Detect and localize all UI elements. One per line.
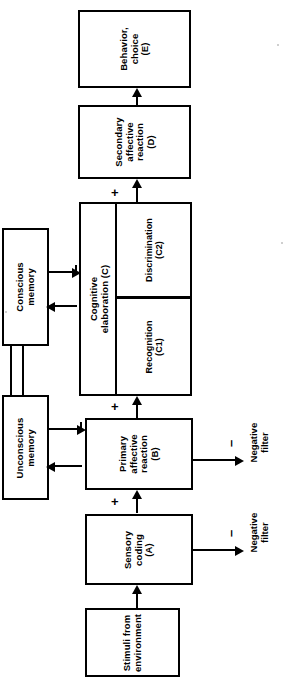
primary-line-4: (B) xyxy=(149,447,160,461)
edge-conscious-memory-stub-upper xyxy=(75,265,77,273)
unconscious-memory-line-2: memory xyxy=(25,429,36,467)
node-conscious-memory-label: Conscious memory xyxy=(15,262,36,311)
arrowhead-primary-to-negative-filter xyxy=(235,456,244,466)
primary-line-1: Primary xyxy=(117,436,128,472)
sign-plus-cognitive-to-secondary: + xyxy=(111,186,119,199)
stimuli-line-2: environment xyxy=(132,613,143,671)
arrowhead-secondary-to-behavior xyxy=(132,88,142,97)
node-secondary-affective-reaction-label: Secondary affective reaction (D) xyxy=(113,117,156,166)
arrowhead-cognitive-to-conscious-memory xyxy=(46,302,55,312)
sign-minus-sensory-filter: – xyxy=(224,530,237,537)
secondary-line-2: affective xyxy=(123,122,134,161)
edge-primary-to-negative-filter xyxy=(193,459,238,461)
edge-cognitive-to-secondary xyxy=(136,186,138,202)
conscious-memory-line-2: memory xyxy=(25,268,36,306)
negative-filter-sensory-line-1: Negative xyxy=(248,513,259,553)
primary-line-3: reaction xyxy=(138,435,149,473)
scan-speck-2 xyxy=(281,242,283,244)
edge-memory-link-left xyxy=(10,346,12,395)
conscious-memory-line-1: Conscious xyxy=(14,262,25,311)
behavior-line-3: (E) xyxy=(139,43,150,56)
edge-unconscious-memory-stub-upper xyxy=(80,422,82,430)
recognition-line-2: (C1) xyxy=(154,338,164,356)
sensory-line-2: coding xyxy=(133,534,144,566)
arrowhead-primary-to-unconscious-memory xyxy=(46,462,55,472)
sign-minus-primary-filter: – xyxy=(224,440,237,447)
node-recognition: Recognition (C1) xyxy=(115,297,192,396)
node-primary-affective-reaction: Primary affective reaction (B) xyxy=(85,418,193,490)
secondary-line-3: reaction xyxy=(134,123,145,161)
recognition-line-1: Recognition xyxy=(143,320,153,373)
arrowhead-sensory-to-primary xyxy=(132,490,142,499)
arrowhead-stimuli-to-sensory xyxy=(132,585,142,594)
label-negative-filter-sensory: Negative filter xyxy=(249,503,270,563)
node-unconscious-memory: Unconscious memory xyxy=(2,395,49,500)
arrowhead-sensory-to-negative-filter xyxy=(235,546,244,556)
edge-primary-to-unconscious-memory xyxy=(51,465,82,467)
node-recognition-label: Recognition (C1) xyxy=(143,320,163,373)
negative-filter-primary-line-2: filter xyxy=(259,432,270,453)
edge-sensory-to-negative-filter xyxy=(193,549,238,551)
label-negative-filter-primary: Negative filter xyxy=(249,413,270,473)
node-stimuli-from-environment-label: Stimuli from environment xyxy=(122,613,143,671)
discrimination-line-2: (C2) xyxy=(154,241,164,259)
node-sensory-coding-label: Sensory coding (A) xyxy=(123,530,155,568)
edge-memory-link-right xyxy=(22,346,24,395)
node-unconscious-memory-label: Unconscious memory xyxy=(15,417,36,478)
node-behavior-choice-label: Behavior, choice (E) xyxy=(119,27,151,71)
unconscious-memory-line-1: Unconscious xyxy=(14,417,25,478)
behavior-line-2: choice xyxy=(128,34,139,65)
node-primary-affective-reaction-label: Primary affective reaction (B) xyxy=(118,434,161,473)
node-discrimination: Discrimination (C2) xyxy=(115,202,192,298)
behavior-line-1: Behavior, xyxy=(118,27,129,71)
cognitive-line-2: elaboration (C) xyxy=(99,265,110,334)
node-stimuli-from-environment: Stimuli from environment xyxy=(85,608,180,677)
node-behavior-choice: Behavior, choice (E) xyxy=(78,10,191,88)
scan-speck-3 xyxy=(5,311,7,313)
node-conscious-memory: Conscious memory xyxy=(2,228,49,346)
arrowhead-cognitive-to-secondary xyxy=(132,179,142,188)
negative-filter-sensory-line-2: filter xyxy=(259,522,270,543)
scan-speck-1 xyxy=(277,44,279,46)
secondary-line-4: (D) xyxy=(144,135,155,149)
node-sensory-coding: Sensory coding (A) xyxy=(85,514,193,585)
sensory-line-1: Sensory xyxy=(122,530,133,568)
edge-primary-to-cognitive xyxy=(136,403,138,418)
primary-line-2: affective xyxy=(127,434,138,473)
edge-unconscious-memory-stub-lower xyxy=(80,465,82,467)
node-cognitive-elaboration-label: Cognitive elaboration (C) xyxy=(89,265,110,334)
sign-plus-primary-to-cognitive: + xyxy=(111,400,119,413)
secondary-line-1: Secondary xyxy=(112,117,123,166)
edge-unconscious-memory-to-primary xyxy=(49,428,80,430)
edge-stimuli-to-sensory xyxy=(136,592,138,608)
node-discrimination-label: Discrimination (C2) xyxy=(143,218,163,282)
cognitive-line-1: Cognitive xyxy=(88,277,99,321)
edge-conscious-memory-stub-lower xyxy=(75,305,77,307)
edge-sensory-to-primary xyxy=(136,497,138,513)
discrimination-line-1: Discrimination xyxy=(143,218,153,282)
diagram-canvas: Behavior, choice (E) Secondary affective… xyxy=(0,0,300,687)
arrowhead-primary-to-cognitive xyxy=(132,396,142,405)
stimuli-line-1: Stimuli from xyxy=(121,614,132,671)
negative-filter-primary-line-1: Negative xyxy=(248,423,259,463)
sign-plus-sensory-to-primary: + xyxy=(111,495,119,508)
node-secondary-affective-reaction: Secondary affective reaction (D) xyxy=(78,105,191,179)
sensory-line-3: (A) xyxy=(143,543,154,557)
